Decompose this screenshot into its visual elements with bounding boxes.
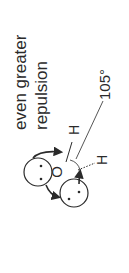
caption-line-2: repulsion — [32, 61, 51, 130]
oxygen-atom: O — [48, 166, 65, 178]
caption-line-1: even greater — [11, 34, 30, 130]
water-repulsion-diagram: even greater repulsion O H H 105° — [0, 0, 129, 273]
repulsion-arrow-top — [33, 152, 60, 158]
bond-angle-label: 105° — [96, 69, 113, 100]
hydrogen-atom-2: H — [94, 155, 110, 165]
hydrogen-atom-1: H — [66, 125, 82, 135]
lone-pair-lobe-2 — [60, 179, 88, 207]
repulsion-arrow-right — [79, 172, 80, 184]
electron-dot — [78, 191, 81, 194]
electron-dot — [40, 178, 43, 181]
bond-o-h1 — [66, 142, 72, 162]
electron-dot — [68, 198, 71, 201]
bond-o-h2-dashed — [78, 163, 95, 170]
electron-dot — [40, 165, 43, 168]
repulsion-arrow-bottom — [46, 185, 58, 197]
bond-angle-arc — [70, 160, 80, 170]
